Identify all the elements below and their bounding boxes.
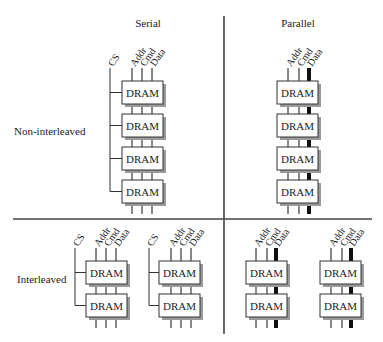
dram-chip: DRAM <box>246 294 290 320</box>
dram-chip-label: DRAM <box>163 300 196 312</box>
dram-chip: DRAM <box>320 294 364 320</box>
dram-chip: DRAM <box>277 180 321 206</box>
dram-chip-label: DRAM <box>126 153 159 165</box>
signal-label-cs: CS <box>145 232 161 248</box>
dram-chip: DRAM <box>159 261 203 287</box>
dram-chip-label: DRAM <box>126 87 159 99</box>
dram-chip: DRAM <box>320 261 364 287</box>
dram-organization-diagram: Serial Parallel Non-interleaved Interlea… <box>0 0 383 342</box>
dram-chip: DRAM <box>159 294 203 320</box>
dram-chip-label: DRAM <box>281 153 314 165</box>
dram-chip-label: DRAM <box>126 120 159 132</box>
dram-chip: DRAM <box>246 261 290 287</box>
row-header-interleaved: Interleaved <box>17 273 67 285</box>
dram-chip-label: DRAM <box>90 267 123 279</box>
dram-chip: DRAM <box>122 114 166 140</box>
column-header-serial: Serial <box>135 17 161 29</box>
dram-chip: DRAM <box>122 180 166 206</box>
row-header-non-interleaved: Non-interleaved <box>14 125 86 137</box>
dram-chip: DRAM <box>86 261 130 287</box>
dram-chip: DRAM <box>277 114 321 140</box>
dram-chip-label: DRAM <box>324 267 357 279</box>
dram-chip: DRAM <box>122 147 166 173</box>
dram-chip-label: DRAM <box>126 186 159 198</box>
dram-chip: DRAM <box>277 81 321 107</box>
dram-chip-label: DRAM <box>281 120 314 132</box>
dram-chip-label: DRAM <box>324 300 357 312</box>
dram-chip-label: DRAM <box>250 300 283 312</box>
dram-chip-label: DRAM <box>90 300 123 312</box>
dram-chip: DRAM <box>86 294 130 320</box>
signal-label-cs: CS <box>71 232 87 248</box>
dram-chip-label: DRAM <box>163 267 196 279</box>
dram-chip-label: DRAM <box>281 87 314 99</box>
column-header-parallel: Parallel <box>281 17 315 29</box>
dram-chip: DRAM <box>122 81 166 107</box>
dram-chip-label: DRAM <box>250 267 283 279</box>
signal-label-cs: CS <box>106 52 122 68</box>
dram-chip: DRAM <box>277 147 321 173</box>
dram-chip-label: DRAM <box>281 186 314 198</box>
